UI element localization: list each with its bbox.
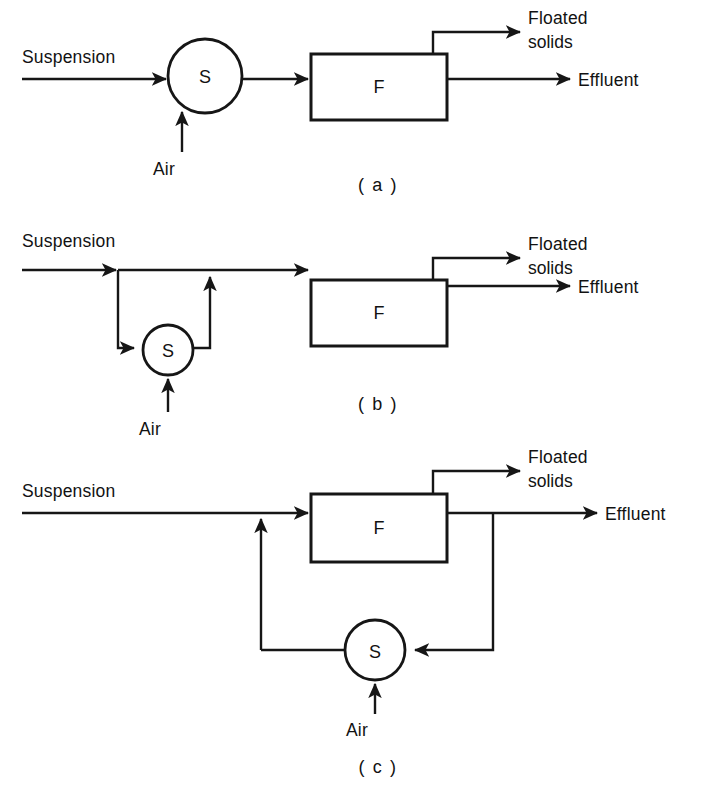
panel-a-caption: ( a ) (358, 175, 398, 195)
panel-a-floated-solids-label-line1: Floated (528, 8, 588, 28)
process-flow-figure: S Air F Floated solids Effluent Suspensi… (0, 0, 715, 795)
panel-c-floated-solids-label-line1: Floated (528, 447, 588, 467)
figure-canvas: S Air F Floated solids Effluent Suspensi… (0, 0, 715, 795)
panel-a-air-label: Air (153, 159, 175, 179)
panel-c-caption: ( c ) (359, 757, 398, 777)
panel-b-floated-solids-label-line2: solids (528, 258, 573, 278)
panel-c-inlet-label: Suspension (22, 481, 115, 501)
panel-a-saturator-label: S (199, 67, 211, 87)
panel-b-saturator-label: S (162, 341, 174, 361)
panel-c-flotation-label: F (374, 518, 385, 538)
panel-c-effluent-label: Effluent (605, 504, 666, 524)
panel-c-air-label: Air (346, 720, 368, 740)
panel-a-flotation-label: F (374, 77, 385, 97)
panel-c-saturator-label: S (369, 642, 381, 662)
panel-b-effluent-label: Effluent (578, 277, 639, 297)
panel-a-inlet-label: Suspension (22, 47, 115, 67)
panel-b-floated-solids-label-line1: Floated (528, 234, 588, 254)
panel-a-floated-solids-label-line2: solids (528, 32, 573, 52)
panel-b-air-label: Air (139, 419, 161, 439)
panel-b-inlet-label: Suspension (22, 231, 115, 251)
panel-c-floated-solids-label-line2: solids (528, 471, 573, 491)
panel-b-caption: ( b ) (358, 394, 398, 414)
panel-b-flotation-label: F (374, 303, 385, 323)
panel-a-effluent-label: Effluent (578, 70, 639, 90)
